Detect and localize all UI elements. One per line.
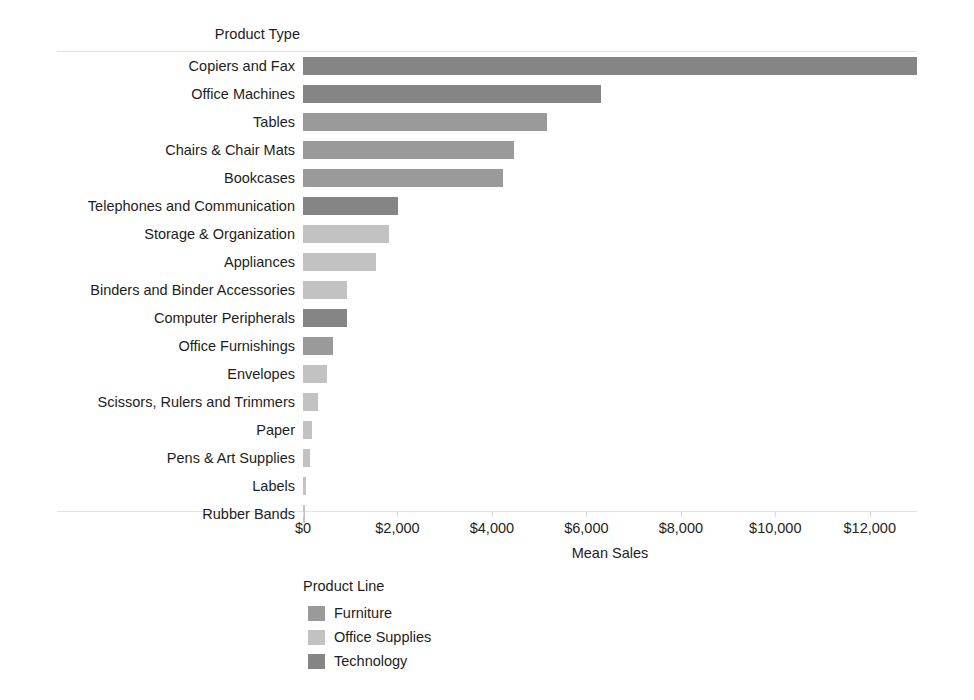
x-tick [492, 512, 493, 517]
category-label: Envelopes [0, 360, 295, 388]
bar-row [303, 444, 917, 472]
x-axis-tick-labels: $0$2,000$4,000$6,000$8,000$10,000$12,000 [0, 520, 974, 540]
bar-row [303, 192, 917, 220]
bar-row [303, 276, 917, 304]
bar-row [303, 164, 917, 192]
x-tick [775, 512, 776, 517]
bar[interactable] [303, 113, 547, 131]
bar-row [303, 416, 917, 444]
bar-chart: Product Type Copiers and FaxOffice Machi… [0, 0, 974, 700]
bar-row [303, 360, 917, 388]
legend-item[interactable]: Office Supplies [303, 625, 431, 649]
bar-row [303, 248, 917, 276]
bar[interactable] [303, 309, 347, 327]
x-tick-label: $2,000 [375, 520, 419, 536]
legend-item[interactable]: Furniture [303, 601, 431, 625]
legend-item[interactable]: Technology [303, 649, 431, 673]
bar-row [303, 332, 917, 360]
legend-swatch-icon [308, 630, 325, 645]
bar-row [303, 472, 917, 500]
x-axis-title: Mean Sales [303, 545, 917, 561]
x-axis-ticks [303, 512, 917, 520]
category-label: Labels [0, 472, 295, 500]
bar[interactable] [303, 169, 503, 187]
bar-row [303, 220, 917, 248]
category-label: Office Furnishings [0, 332, 295, 360]
category-label: Office Machines [0, 80, 295, 108]
bar[interactable] [303, 477, 306, 495]
bar[interactable] [303, 421, 312, 439]
category-label: Binders and Binder Accessories [0, 276, 295, 304]
bar[interactable] [303, 393, 318, 411]
category-label: Chairs & Chair Mats [0, 136, 295, 164]
x-tick [397, 512, 398, 517]
legend: Product Line FurnitureOffice SuppliesTec… [303, 578, 431, 673]
category-label: Storage & Organization [0, 220, 295, 248]
legend-label: Furniture [334, 605, 392, 621]
plot-area [303, 52, 917, 511]
x-tick [681, 512, 682, 517]
bar[interactable] [303, 281, 347, 299]
x-tick-label: $0 [295, 520, 311, 536]
bar-row [303, 52, 917, 80]
x-tick [303, 512, 304, 517]
bar-rows [303, 52, 917, 511]
legend-title: Product Line [303, 578, 431, 594]
category-label: Paper [0, 416, 295, 444]
legend-swatch-icon [308, 606, 325, 621]
x-tick-label: $6,000 [564, 520, 608, 536]
bar-row [303, 136, 917, 164]
category-label: Computer Peripherals [0, 304, 295, 332]
bar[interactable] [303, 197, 398, 215]
x-tick-label: $8,000 [659, 520, 703, 536]
bar-row [303, 304, 917, 332]
legend-label: Office Supplies [334, 629, 431, 645]
category-label: Pens & Art Supplies [0, 444, 295, 472]
bar[interactable] [303, 85, 601, 103]
legend-label: Technology [334, 653, 407, 669]
bar[interactable] [303, 365, 327, 383]
category-label: Telephones and Communication [0, 192, 295, 220]
x-tick-label: $4,000 [470, 520, 514, 536]
legend-swatch-icon [308, 654, 325, 669]
bar-row [303, 80, 917, 108]
x-tick [870, 512, 871, 517]
x-tick-label: $12,000 [844, 520, 896, 536]
category-label: Tables [0, 108, 295, 136]
category-label: Copiers and Fax [0, 52, 295, 80]
category-label: Appliances [0, 248, 295, 276]
category-label-column: Copiers and FaxOffice MachinesTablesChai… [0, 52, 295, 528]
legend-items: FurnitureOffice SuppliesTechnology [303, 601, 431, 673]
bar[interactable] [303, 57, 917, 75]
bar-row [303, 388, 917, 416]
bar[interactable] [303, 337, 333, 355]
bar[interactable] [303, 141, 514, 159]
bar[interactable] [303, 449, 310, 467]
bar[interactable] [303, 225, 389, 243]
x-tick-label: $10,000 [749, 520, 801, 536]
x-tick [586, 512, 587, 517]
bar[interactable] [303, 253, 376, 271]
category-label: Bookcases [0, 164, 295, 192]
y-axis-title: Product Type [0, 26, 300, 42]
bar-row [303, 108, 917, 136]
category-label: Scissors, Rulers and Trimmers [0, 388, 295, 416]
